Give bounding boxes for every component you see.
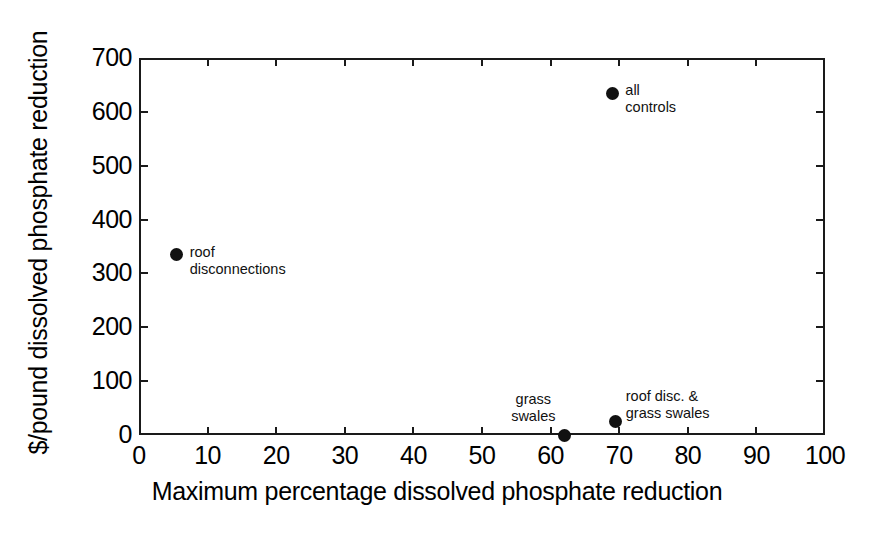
y-axis-tick-left — [139, 219, 148, 221]
x-axis-tick-label: 70 — [584, 441, 654, 469]
y-axis-tick-left — [139, 326, 148, 328]
y-axis-tick-label: 600 — [52, 99, 132, 124]
x-axis-tick-bottom — [687, 427, 689, 435]
x-axis-tick-label: 90 — [721, 441, 791, 469]
y-axis-tick-left — [139, 111, 148, 113]
x-axis-tick-bottom — [618, 427, 620, 435]
x-axis-tick-top — [618, 58, 620, 66]
x-axis-tick-bottom — [275, 427, 277, 435]
y-axis-tick-label: 500 — [52, 153, 132, 178]
y-axis-tick-left — [139, 165, 148, 167]
y-axis-tick-right — [816, 111, 825, 113]
x-axis-tick-top — [412, 58, 414, 66]
data-point-marker — [606, 87, 619, 100]
x-axis-tick-label: 60 — [516, 441, 586, 469]
data-point-label: roof disc. & grass swales — [626, 388, 710, 422]
x-axis-tick-top — [275, 58, 277, 66]
data-point-label: roof disconnections — [190, 244, 286, 278]
x-axis-tick-top — [481, 58, 483, 66]
data-point-label: all controls — [625, 82, 676, 116]
x-axis-tick-bottom — [755, 427, 757, 435]
x-axis-tick-top — [687, 58, 689, 66]
x-axis-tick-label: 30 — [310, 441, 380, 469]
x-axis-tick-bottom — [344, 427, 346, 435]
y-axis-tick-label: 100 — [52, 368, 132, 393]
x-axis-tick-label: 80 — [653, 441, 723, 469]
data-point-marker — [558, 429, 571, 442]
x-axis-title: Maximum percentage dissolved phosphate r… — [0, 477, 874, 506]
x-axis-tick-label: 100 — [790, 441, 860, 469]
y-axis-tick-label: 0 — [52, 422, 132, 447]
x-axis-tick-bottom — [481, 427, 483, 435]
x-axis-tick-label: 40 — [378, 441, 448, 469]
x-axis-tick-bottom — [207, 427, 209, 435]
x-axis-tick-top — [207, 58, 209, 66]
x-axis-tick-label: 50 — [447, 441, 517, 469]
y-axis-tick-label: 400 — [52, 207, 132, 232]
x-axis-tick-bottom — [550, 427, 552, 435]
y-axis-tick-label: 200 — [52, 314, 132, 339]
x-axis-tick-top — [550, 58, 552, 66]
y-axis-tick-left — [139, 380, 148, 382]
y-axis-tick-left — [139, 272, 148, 274]
y-axis-tick-label: 300 — [52, 260, 132, 285]
y-axis-tick-labels: 0100200300400500600700 — [48, 0, 132, 535]
y-axis-tick-right — [816, 380, 825, 382]
y-axis-tick-right — [816, 165, 825, 167]
y-axis-tick-right — [816, 272, 825, 274]
data-point-label: grass swales — [502, 391, 564, 425]
chart-figure: 0102030405060708090100 01002003004005006… — [0, 0, 874, 535]
y-axis-title: $/pound dissolved phosphate reduction — [24, 8, 53, 478]
x-axis-tick-top — [344, 58, 346, 66]
y-axis-tick-label: 700 — [52, 45, 132, 70]
y-axis-tick-right — [816, 219, 825, 221]
x-axis-tick-label: 10 — [173, 441, 243, 469]
y-axis-tick-right — [816, 326, 825, 328]
x-axis-tick-bottom — [412, 427, 414, 435]
x-axis-tick-label: 20 — [241, 441, 311, 469]
x-axis-tick-top — [755, 58, 757, 66]
